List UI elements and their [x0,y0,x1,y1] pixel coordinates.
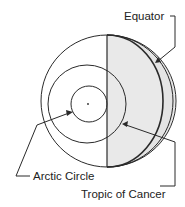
tropic-of-cancer-label: Tropic of Cancer [81,188,166,200]
arctic-circle [71,86,107,122]
equator-label: Equator [124,10,164,22]
arctic-circle-leader-line [16,113,69,176]
arctic-circle-label: Arctic Circle [33,170,94,182]
equator-leader-line [158,16,175,61]
globe-diagram: Equator Arctic Circle Tropic of Cancer [0,0,185,207]
north-pole-dot [87,103,89,105]
